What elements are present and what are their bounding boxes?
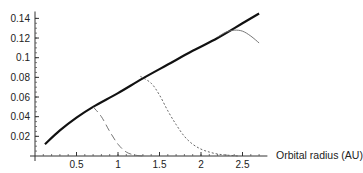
x-axis-label: Orbital radius (AU): [276, 149, 363, 161]
x-tick-label: 1.5: [153, 159, 167, 170]
y-tick-label: 0.04: [11, 111, 31, 122]
x-tick-label: 0.5: [70, 159, 84, 170]
envelope-curve: [45, 13, 259, 144]
axes: 0.511.522.50.020.040.060.080.10.120.14: [11, 11, 268, 170]
x-tick-label: 2: [198, 159, 204, 170]
thin-solid-curve: [218, 30, 260, 43]
dashed-curve: [93, 107, 143, 156]
orbital-radius-chart: 0.511.522.50.020.040.060.080.10.120.14 O…: [0, 0, 363, 173]
y-tick-label: 0.1: [16, 52, 30, 63]
x-tick-label: 1: [115, 159, 121, 170]
dotted-curve: [140, 76, 238, 156]
y-tick-label: 0.06: [11, 92, 31, 103]
y-tick-label: 0.08: [11, 72, 31, 83]
x-tick-label: 2.5: [236, 159, 250, 170]
y-tick-label: 0.14: [11, 13, 31, 24]
curves: [45, 13, 259, 156]
y-tick-label: 0.02: [11, 131, 31, 142]
y-tick-label: 0.12: [11, 33, 31, 44]
